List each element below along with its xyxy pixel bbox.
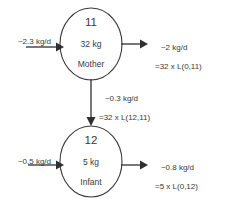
node-mass-infant: 5 kg (60, 157, 122, 167)
arrow-mother-to-infant (87, 79, 96, 126)
flow-label-infant-input-line1: ~0.5 kg/d (18, 157, 51, 166)
arrow-infant-output (121, 161, 148, 170)
flow-label-mother-output-line1: ~2 kg/d (161, 43, 187, 52)
node-id-mother: 11 (60, 15, 122, 29)
flow-label-infant-output: ~0.8 kg/d =5 x L(0,12) (152, 153, 198, 212)
flow-label-mother-to-infant-line2: =32 x L(12,11) (96, 113, 150, 123)
flow-label-infant-output-line2: =5 x L(0,12) (152, 182, 198, 192)
flow-label-mother-input: ~2.3 kg/d (9, 27, 51, 56)
flow-label-infant-output-line1: ~0.8 kg/d (161, 163, 194, 172)
node-name-mother: Mother (60, 59, 122, 69)
flow-label-mother-output: ~2 kg/d =32 x L(0,11) (152, 33, 202, 92)
flow-label-mother-to-infant-line1: ~0.3 kg/d (105, 94, 138, 103)
arrow-mother-output (121, 40, 148, 49)
compartmental-model-diagram: 11 32 kg Mother 12 5 kg Infant ~2.3 kg/d… (0, 0, 226, 212)
node-mass-mother: 32 kg (60, 39, 122, 49)
node-name-infant: Infant (60, 177, 122, 187)
flow-label-infant-input: ~0.5 kg/d (9, 147, 51, 176)
flow-label-mother-to-infant: ~0.3 kg/d =32 x L(12,11) (96, 84, 150, 143)
flow-label-mother-input-line1: ~2.3 kg/d (18, 37, 51, 46)
flow-label-mother-output-line2: =32 x L(0,11) (152, 62, 202, 72)
